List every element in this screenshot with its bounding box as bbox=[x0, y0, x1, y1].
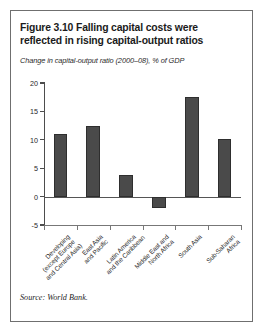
y-axis-tick-label: -5 bbox=[18, 221, 38, 230]
source-note: Source: World Bank. bbox=[20, 293, 88, 302]
y-axis-tick-label: 0 bbox=[18, 193, 38, 202]
x-axis-tick bbox=[175, 225, 176, 230]
x-axis-tick bbox=[77, 225, 78, 230]
bar bbox=[152, 197, 166, 208]
y-axis-tick bbox=[40, 111, 45, 112]
x-axis-category-label: Sub-SaharanAfrica bbox=[198, 233, 241, 276]
x-axis-tick bbox=[241, 225, 242, 230]
y-axis-tick bbox=[40, 168, 45, 169]
y-axis-tick bbox=[40, 139, 45, 140]
x-axis-tick bbox=[208, 225, 209, 230]
y-axis-tick-label: 20 bbox=[18, 79, 38, 88]
figure-frame: Figure 3.10 Falling capital costs were r… bbox=[10, 10, 253, 322]
bar bbox=[54, 134, 68, 197]
figure-title: Figure 3.10 Falling capital costs were r… bbox=[20, 21, 242, 47]
y-axis-tick bbox=[40, 196, 45, 197]
y-axis-tick bbox=[40, 82, 45, 83]
chart-plot-area: 20151050-5 Developing(except Europeand C… bbox=[20, 69, 245, 249]
y-axis-tick-label: 15 bbox=[18, 107, 38, 116]
bar bbox=[185, 97, 199, 196]
zero-baseline bbox=[44, 197, 241, 198]
y-axis-tick-label: 5 bbox=[18, 164, 38, 173]
x-axis-tick bbox=[110, 225, 111, 230]
bar bbox=[86, 126, 100, 196]
y-axis-tick-label: 10 bbox=[18, 136, 38, 145]
x-axis-tick bbox=[44, 225, 45, 230]
x-axis-tick bbox=[143, 225, 144, 230]
bar bbox=[119, 175, 133, 197]
y-axis-line bbox=[44, 83, 45, 225]
bar bbox=[218, 139, 232, 196]
chart-subtitle: Change in capital-output ratio (2000–08)… bbox=[20, 56, 245, 65]
